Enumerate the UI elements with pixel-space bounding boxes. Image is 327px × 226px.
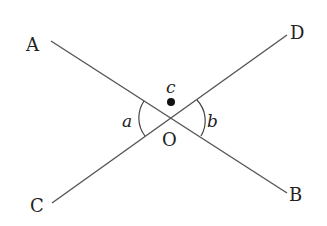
label-c-point: C: [30, 195, 44, 216]
angle-arc-a: [139, 101, 145, 136]
line-ab: [51, 41, 287, 193]
label-a-point: A: [25, 34, 40, 55]
angle-arc-b: [197, 100, 205, 136]
diagram-canvas: A D C B O a b c: [0, 0, 327, 226]
label-angle-a: a: [122, 111, 132, 131]
line-cd: [52, 35, 287, 203]
label-angle-b: b: [207, 111, 218, 131]
label-angle-c: c: [166, 77, 176, 97]
label-b-point: B: [289, 184, 302, 205]
label-o-point: O: [162, 129, 177, 150]
label-d-point: D: [290, 22, 304, 43]
intersecting-lines-diagram: A D C B O a b c: [0, 0, 327, 226]
point-c-dot: [167, 98, 175, 106]
